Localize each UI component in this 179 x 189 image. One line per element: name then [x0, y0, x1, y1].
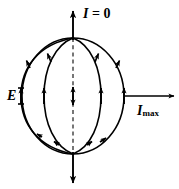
sphere-field-diagram: [0, 0, 179, 189]
electric-field-label: E: [7, 89, 16, 103]
current-zero-label: I = 0: [83, 7, 110, 21]
field-arrow-upper-right-inner: [95, 54, 99, 63]
current-max-label: Imax: [137, 104, 159, 118]
current-max-subscript: max: [142, 108, 159, 118]
meridian-line-left-outer: [21, 38, 73, 154]
field-arrow-upper-left-inner: [48, 54, 52, 63]
current-zero-equals: = 0: [88, 6, 110, 21]
physics-figure: I = 0 Imax E: [0, 0, 179, 189]
